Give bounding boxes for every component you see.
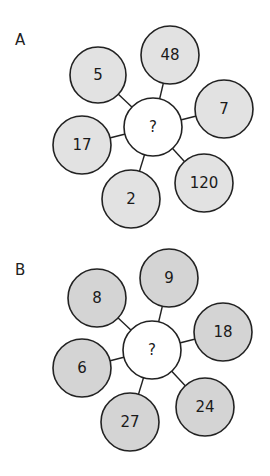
outer-number-circle: 7 [195, 80, 253, 138]
outer-number-circle: 2 [102, 170, 160, 228]
puzzle-label-b: B [15, 261, 25, 279]
circle-number: 120 [190, 174, 219, 192]
center-unknown-circle: ? [123, 321, 181, 379]
outer-number-circle: 48 [141, 26, 199, 84]
circle-number: 24 [195, 398, 214, 416]
circle-number: 8 [92, 289, 102, 307]
outer-number-circle: 27 [101, 393, 159, 451]
circle-number: 9 [164, 269, 174, 287]
circle-number: 5 [93, 66, 103, 84]
circle-number: 17 [72, 136, 91, 154]
circle-number: 2 [126, 190, 136, 208]
center-unknown-circle: ? [124, 98, 182, 156]
outer-number-circle: 120 [175, 154, 233, 212]
question-mark: ? [148, 341, 156, 359]
circle-number: 7 [219, 100, 229, 118]
outer-number-circle: 9 [140, 249, 198, 307]
outer-number-circle: 6 [53, 339, 111, 397]
circle-number: 6 [77, 359, 87, 377]
outer-number-circle: 17 [53, 116, 111, 174]
circle-number: 48 [160, 46, 179, 64]
outer-number-circle: 24 [176, 378, 234, 436]
outer-number-circle: 5 [70, 47, 126, 103]
outer-number-circle: 8 [68, 269, 126, 327]
number-wheel-puzzles: A B 5487120217? 891824276? [0, 0, 270, 476]
puzzle-label-a: A [15, 31, 26, 49]
outer-number-circle: 18 [194, 303, 252, 361]
puzzle-a-wheel: 5487120217? [53, 26, 253, 228]
circle-number: 27 [120, 413, 139, 431]
puzzle-b-wheel: 891824276? [53, 249, 252, 451]
question-mark: ? [149, 118, 157, 136]
circle-number: 18 [213, 323, 232, 341]
